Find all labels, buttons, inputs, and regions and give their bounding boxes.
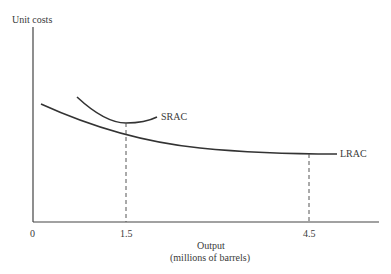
y-axis-label: Unit costs [12, 15, 52, 25]
srac-curve [77, 97, 157, 123]
cost-curve-diagram [0, 0, 391, 274]
lrac-curve [41, 104, 337, 154]
x-axis-title: Output [197, 241, 225, 251]
x-tick-1-5: 1.5 [120, 229, 133, 239]
x-axis-subtitle: (millions of barrels) [170, 253, 250, 263]
x-tick-4-5: 4.5 [303, 229, 316, 239]
x-tick-0: 0 [30, 229, 35, 239]
srac-label: SRAC [161, 112, 187, 122]
lrac-label: LRAC [340, 149, 367, 159]
